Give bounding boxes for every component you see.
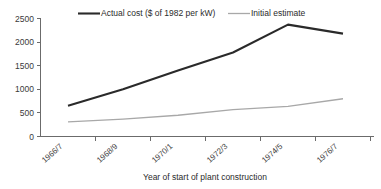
series-line-initial-estimate (68, 99, 343, 122)
series-line-actual-cost (68, 25, 343, 106)
x-tick-label-1968-9: 1968/9 (95, 141, 120, 164)
y-tick-label-1500: 1500 (15, 61, 34, 71)
x-tick-marks (96, 137, 371, 142)
chart-canvas: 2500 2000 1500 1000 500 0 1966/7 1968/9 … (0, 0, 381, 189)
y-tick-label-1000: 1000 (15, 84, 34, 94)
y-tick-label-0: 0 (29, 132, 34, 142)
line-chart: 2500 2000 1500 1000 500 0 1966/7 1968/9 … (0, 0, 381, 189)
x-tick-label-1970-1: 1970/1 (150, 141, 175, 164)
x-tick-label-1972-3: 1972/3 (205, 141, 230, 164)
x-tick-label-1966-7: 1966/7 (40, 141, 65, 164)
x-axis-title: Year of start of plant construction (143, 172, 267, 182)
legend-label-initial-estimate: Initial estimate (251, 8, 306, 18)
y-tick-label-500: 500 (20, 108, 34, 118)
legend: Actual cost ($ of 1982 per kW) Initial e… (78, 8, 306, 18)
x-tick-label-1974-5: 1974/5 (260, 141, 285, 164)
y-tick-label-2500: 2500 (15, 14, 34, 24)
y-tick-marks (37, 19, 41, 137)
legend-label-actual-cost: Actual cost ($ of 1982 per kW) (101, 8, 215, 18)
y-tick-label-2000: 2000 (15, 37, 34, 47)
x-tick-label-1976-7: 1976/7 (315, 141, 340, 164)
